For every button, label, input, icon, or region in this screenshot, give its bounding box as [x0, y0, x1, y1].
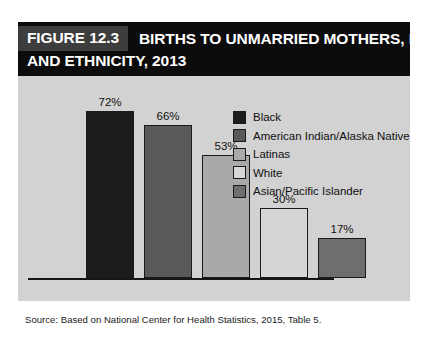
legend-swatch [233, 148, 246, 161]
bar-value-label: 17% [310, 223, 374, 235]
legend-item: Latinas [233, 145, 413, 164]
figure-title-bar: FIGURE 12.3 BIRTHS TO UNMARRIED MOTHERS,… [18, 22, 410, 76]
title-first-row: FIGURE 12.3 BIRTHS TO UNMARRIED MOTHERS,… [18, 26, 426, 51]
legend-label: Latinas [253, 148, 290, 160]
legend-item: White [233, 164, 413, 183]
figure-title-line-2: AND ETHNICITY, 2013 [27, 50, 186, 72]
bar [260, 208, 308, 278]
figure-container: FIGURE 12.3 BIRTHS TO UNMARRIED MOTHERS,… [18, 22, 410, 328]
legend-item: Asian/Pacific Islander [233, 182, 413, 201]
bar [144, 125, 192, 278]
bar-slot: 72% [86, 92, 134, 278]
legend-item: American Indian/Alaska Native [233, 127, 413, 146]
bar-value-label: 72% [78, 96, 142, 108]
bar-slot: 66% [144, 92, 192, 278]
legend-swatch [233, 129, 246, 142]
x-axis-line [28, 278, 334, 280]
legend-label: Black [253, 111, 281, 123]
figure-number-badge: FIGURE 12.3 [18, 26, 128, 51]
legend-swatch [233, 111, 246, 124]
source-note: Source: Based on National Center for Hea… [25, 314, 321, 325]
chart-legend: BlackAmerican Indian/Alaska NativeLatina… [233, 108, 413, 201]
legend-label: White [253, 167, 282, 179]
plot-area: 72%66%53%30%17% BlackAmerican Indian/Ala… [18, 76, 410, 301]
legend-item: Black [233, 108, 413, 127]
legend-label: American Indian/Alaska Native [253, 130, 410, 142]
bar [318, 238, 366, 278]
bar-value-label: 66% [136, 110, 200, 122]
legend-label: Asian/Pacific Islander [253, 185, 363, 197]
bar [86, 111, 134, 278]
legend-swatch [233, 166, 246, 179]
legend-swatch [233, 185, 246, 198]
figure-title-line-1: BIRTHS TO UNMARRIED MOTHERS, BY RACE [128, 28, 426, 50]
chart-panel: 72%66%53%30%17% BlackAmerican Indian/Ala… [18, 76, 410, 301]
